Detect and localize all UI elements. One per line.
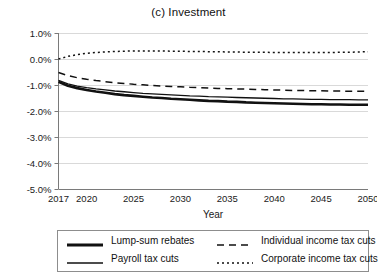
x-axis-tick-labels: 20172020202520302035204020452050 bbox=[48, 193, 377, 204]
legend-label-corporate-income-tax-cuts: Corporate income tax cuts bbox=[261, 253, 378, 264]
legend-swatch-solid-thick bbox=[66, 236, 104, 246]
y-axis bbox=[55, 33, 59, 190]
chart-plot-area: 1.0%0.0%-1.0%-2.0%-3.0%-4.0%-5.0% 201720… bbox=[0, 0, 377, 228]
x-axis-tick-label: 2045 bbox=[311, 193, 332, 204]
y-axis-tick-label: 0.0% bbox=[30, 54, 52, 65]
legend-label-payroll-tax-cuts: Payroll tax cuts bbox=[111, 253, 179, 264]
legend-swatch-dotted bbox=[216, 254, 254, 264]
legend-swatch-solid-thin bbox=[66, 254, 104, 264]
legend-label-lump-sum-rebates: Lump-sum rebates bbox=[111, 235, 194, 246]
legend-item-individual-income-tax-cuts: Individual income tax cuts bbox=[216, 235, 376, 246]
x-axis-tick-label: 2017 bbox=[48, 193, 69, 204]
x-axis-tick-label: 2040 bbox=[264, 193, 285, 204]
series-line-corporate-income-tax-cuts bbox=[59, 51, 369, 59]
x-axis-tick-label: 2020 bbox=[76, 193, 97, 204]
y-axis-tick-label: 1.0% bbox=[30, 28, 52, 39]
y-axis-tick-label: -1.0% bbox=[27, 80, 52, 91]
legend-item-corporate-income-tax-cuts: Corporate income tax cuts bbox=[216, 253, 378, 264]
x-axis-tick-label: 2050 bbox=[357, 193, 377, 204]
x-axis-tick-label: 2025 bbox=[123, 193, 144, 204]
legend-item-payroll-tax-cuts: Payroll tax cuts bbox=[66, 253, 179, 264]
chart-legend: Lump-sum rebates Payroll tax cuts Indivi… bbox=[57, 230, 369, 272]
legend-swatch-dashed bbox=[216, 236, 254, 246]
x-axis-tick-label: 2030 bbox=[170, 193, 191, 204]
y-axis-tick-labels: 1.0%0.0%-1.0%-2.0%-3.0%-4.0%-5.0% bbox=[27, 28, 52, 195]
y-axis-tick-label: -4.0% bbox=[27, 158, 52, 169]
gridlines bbox=[59, 34, 369, 164]
legend-item-lump-sum-rebates: Lump-sum rebates bbox=[66, 235, 194, 246]
y-axis-tick-label: -2.0% bbox=[27, 106, 52, 117]
legend-label-individual-income-tax-cuts: Individual income tax cuts bbox=[261, 235, 376, 246]
series-line-individual-income-tax-cuts bbox=[59, 73, 369, 92]
x-axis-title: Year bbox=[203, 209, 224, 220]
y-axis-tick-label: -3.0% bbox=[27, 132, 52, 143]
x-axis-tick-label: 2035 bbox=[217, 193, 238, 204]
